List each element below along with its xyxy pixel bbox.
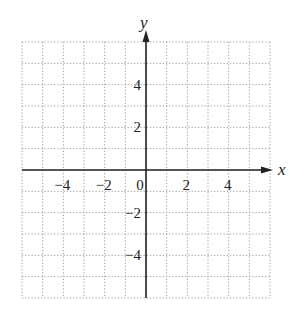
x-tick-label: 4 (224, 177, 232, 193)
axes (22, 30, 273, 298)
y-tick-label: 4 (134, 77, 142, 93)
x-tick-label: 2 (183, 177, 191, 193)
y-tick-label: 2 (134, 119, 142, 135)
coordinate-plane: −4−2024 42−2−4 x y (0, 0, 292, 316)
x-axis-label: x (277, 160, 286, 179)
x-tick-label: −2 (96, 177, 112, 193)
y-tick-label: −2 (125, 205, 141, 221)
x-tick-label: 0 (136, 177, 144, 193)
y-tick-label: −4 (125, 247, 141, 263)
x-tick-label: −4 (54, 177, 70, 193)
x-axis-arrow-icon (261, 167, 273, 174)
y-axis-label: y (138, 13, 148, 32)
x-tick-labels: −4−2024 (54, 177, 232, 193)
